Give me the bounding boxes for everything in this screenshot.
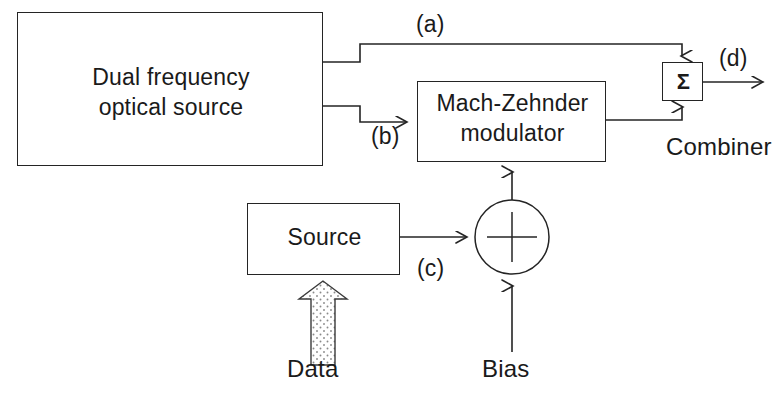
signal-path-b bbox=[323, 106, 406, 122]
modulator-label-line2: modulator bbox=[418, 121, 607, 147]
plus-circle-icon bbox=[475, 200, 549, 274]
block-diagram: Dual frequency optical source Mach-Zehnd… bbox=[0, 0, 779, 398]
data-block-arrow-icon bbox=[299, 281, 347, 365]
signal-tag-d: (d) bbox=[719, 46, 748, 72]
combiner-caption: Combiner bbox=[666, 134, 772, 161]
signal-path-a bbox=[323, 44, 682, 62]
combiner-block[interactable]: Σ bbox=[662, 62, 703, 101]
mach-zehnder-modulator-block[interactable]: Mach-Zehnder modulator bbox=[417, 81, 606, 162]
signal-path-modulator-to-combiner bbox=[606, 107, 682, 120]
signal-tag-a: (a) bbox=[416, 12, 445, 38]
sigma-icon: Σ bbox=[663, 70, 704, 95]
modulator-label-line1: Mach-Zehnder bbox=[418, 91, 607, 117]
source-block[interactable]: Source bbox=[247, 203, 400, 275]
data-input-label: Data bbox=[287, 356, 339, 383]
optical-source-label-line1: Dual frequency bbox=[18, 65, 324, 91]
bias-input-label: Bias bbox=[482, 356, 530, 383]
source-label: Source bbox=[248, 225, 401, 251]
signal-tag-c: (c) bbox=[417, 256, 444, 282]
signal-tag-b: (b) bbox=[371, 124, 400, 150]
optical-source-label-line2: optical source bbox=[18, 95, 324, 121]
optical-source-block[interactable]: Dual frequency optical source bbox=[17, 12, 323, 166]
